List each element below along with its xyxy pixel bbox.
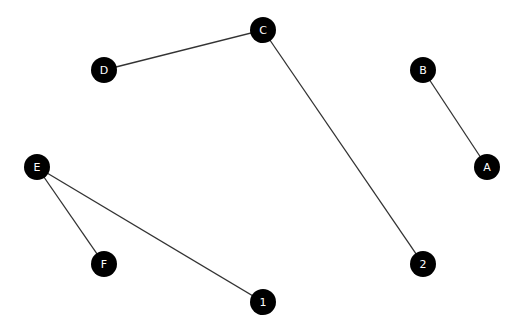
node-A[interactable]: A	[474, 154, 500, 180]
node-1[interactable]: 1	[250, 289, 276, 315]
graph-canvas: CDBAEF21	[0, 0, 527, 335]
node-B[interactable]: B	[410, 57, 436, 83]
node-C[interactable]: C	[250, 17, 276, 43]
node-E[interactable]: E	[24, 154, 50, 180]
edge-E-1	[37, 167, 263, 302]
node-label: 1	[260, 296, 267, 309]
node-label: 2	[420, 258, 427, 271]
node-label: A	[483, 161, 491, 174]
node-label: C	[259, 24, 267, 37]
node-F[interactable]: F	[91, 251, 117, 277]
node-label: D	[100, 64, 108, 77]
node-D[interactable]: D	[91, 57, 117, 83]
edge-C-2	[263, 30, 423, 264]
nodes-layer: CDBAEF21	[24, 17, 500, 315]
node-label: B	[419, 64, 427, 77]
edge-E-F	[37, 167, 104, 264]
edge-D-C	[104, 30, 263, 70]
node-label: E	[34, 161, 41, 174]
node-2[interactable]: 2	[410, 251, 436, 277]
edge-B-A	[423, 70, 487, 167]
node-label: F	[101, 258, 107, 271]
